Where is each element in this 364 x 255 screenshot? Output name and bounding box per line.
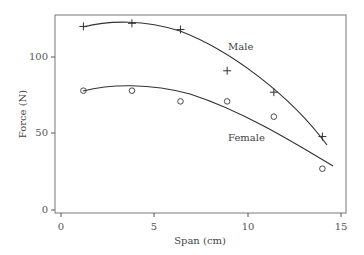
x-tick-15: 15 xyxy=(335,221,348,232)
y-tick-50: 50 xyxy=(35,127,48,138)
male-label: Male xyxy=(228,41,253,52)
female-point xyxy=(178,99,184,105)
chart-svg: 0 50 100 0 5 10 15 Span (cm) Force (N) M… xyxy=(0,0,364,255)
male-fit-curve xyxy=(83,22,327,145)
female-point xyxy=(224,99,230,105)
x-tick-5: 5 xyxy=(151,221,157,232)
female-point xyxy=(271,114,277,120)
female-point xyxy=(129,88,135,94)
x-tick-0: 0 xyxy=(58,221,64,232)
x-tick-10: 10 xyxy=(242,221,255,232)
female-fit-curve xyxy=(83,86,333,166)
y-tick-0: 0 xyxy=(42,204,48,215)
male-markers xyxy=(79,19,326,140)
female-label: Female xyxy=(228,132,265,143)
y-tick-100: 100 xyxy=(29,51,48,62)
y-axis: 0 50 100 xyxy=(29,51,55,215)
x-axis: 0 5 10 15 xyxy=(58,213,348,232)
female-point xyxy=(320,166,326,172)
plot-frame xyxy=(55,15,346,213)
female-markers xyxy=(81,88,326,172)
y-axis-label: Force (N) xyxy=(17,90,28,139)
x-axis-label: Span (cm) xyxy=(174,235,226,246)
